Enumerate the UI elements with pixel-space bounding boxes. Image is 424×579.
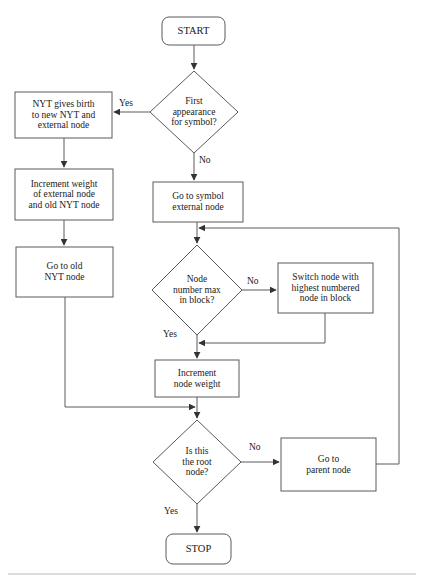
shape-switch-node bbox=[278, 263, 373, 313]
shape-go-to-symbol-external bbox=[153, 182, 243, 222]
flowchart-graphics: NYT gives birth --> Go to symbol externa… bbox=[0, 0, 424, 579]
shape-nyt-gives-birth bbox=[15, 92, 112, 138]
shape-go-to-parent bbox=[281, 438, 376, 491]
flowchart-canvas: NYT gives birth --> Go to symbol externa… bbox=[0, 0, 424, 579]
shape-first-appearance bbox=[150, 71, 238, 153]
shape-increment-weight bbox=[15, 169, 113, 220]
edge-switch-node-to-increment-node-weight bbox=[199, 313, 325, 343]
shape-increment-node-weight bbox=[155, 360, 239, 397]
shape-stop bbox=[166, 534, 231, 564]
shape-start bbox=[162, 17, 225, 45]
shape-go-to-old-nyt bbox=[16, 247, 113, 297]
shape-node-number-max bbox=[152, 245, 242, 335]
shape-is-root bbox=[153, 420, 241, 504]
